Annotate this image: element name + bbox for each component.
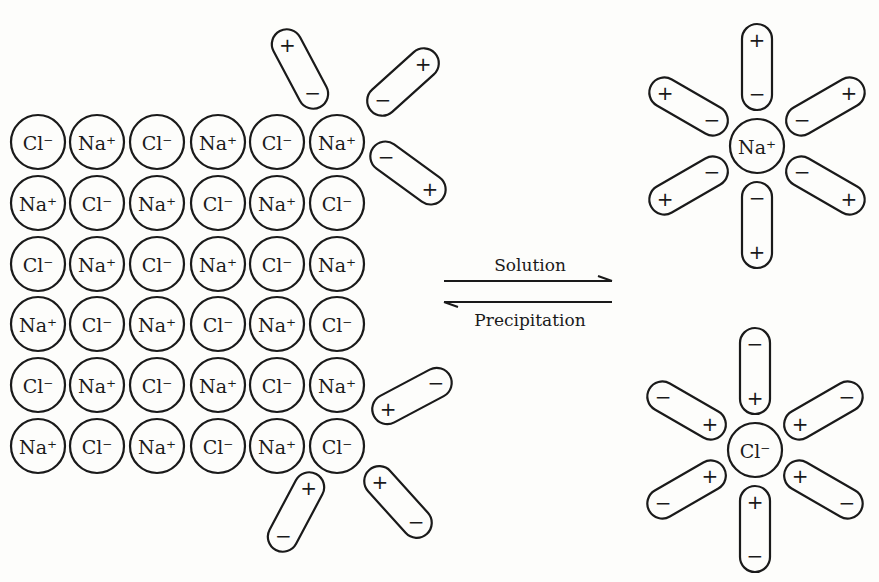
sodium-ion: Na⁺	[70, 115, 124, 169]
minus-pole: −	[838, 385, 855, 409]
ion-label: Na⁺	[19, 314, 57, 336]
ion-label: Cl⁻	[322, 314, 353, 336]
minus-pole: −	[275, 524, 292, 548]
hydrated-chloride-ion: Cl⁻+−+−+−+−+−+−	[642, 328, 868, 572]
sodium-ion: Na⁺	[191, 358, 245, 412]
ion-label: Cl⁻	[82, 193, 113, 215]
plus-pole: +	[702, 412, 719, 436]
minus-pole: −	[794, 160, 811, 184]
minus-pole: −	[704, 160, 721, 184]
water-dipole: −+	[364, 136, 451, 211]
plus-pole: +	[279, 33, 296, 57]
ion-label: Na⁺	[258, 314, 296, 336]
minus-pole: −	[655, 385, 672, 409]
minus-pole: −	[408, 510, 425, 534]
sodium-ion: Na⁺	[310, 237, 364, 291]
ion-label: Cl⁻	[203, 314, 234, 336]
ion-label: Na⁺	[199, 375, 237, 397]
ion-label: Na⁺	[138, 314, 176, 336]
ion-label: Cl⁻	[262, 254, 293, 276]
chloride-ion: Cl⁻	[250, 237, 304, 291]
plus-pole: +	[792, 412, 809, 436]
ion-label: Cl⁻	[82, 436, 113, 458]
water-dipole: +−	[740, 328, 770, 414]
ion-label: Cl⁻	[23, 132, 54, 154]
minus-pole: −	[655, 491, 672, 515]
plus-pole: +	[749, 28, 766, 52]
ion-label: Cl⁻	[142, 132, 173, 154]
ion-label: Cl⁻	[262, 375, 293, 397]
hydrated-sodium-ion: Na⁺−+−+−+−+−+−+	[644, 24, 870, 268]
reverse-arrow-icon	[444, 302, 612, 307]
water-dipole: +−	[358, 460, 438, 544]
sodium-ion: Na⁺	[250, 176, 304, 230]
plus-pole: +	[421, 177, 438, 201]
water-dipole: −+	[644, 72, 733, 141]
chloride-ion: Cl⁻	[11, 237, 65, 291]
plus-pole: +	[747, 386, 764, 410]
ion-label: Cl⁻	[203, 193, 234, 215]
minus-pole: −	[378, 145, 395, 169]
minus-pole: −	[427, 371, 444, 395]
water-dipole: −+	[781, 151, 870, 220]
plus-pole: +	[702, 464, 719, 488]
plus-pole: +	[415, 52, 432, 76]
chloride-ion: Cl⁻	[250, 115, 304, 169]
ion-label: Na⁺	[138, 436, 176, 458]
ion-label: Cl⁻	[322, 193, 353, 215]
water-dipole: +−	[263, 467, 330, 557]
minus-pole: −	[375, 88, 392, 112]
ion-label: Cl⁻	[142, 375, 173, 397]
water-dipole: −+	[781, 72, 870, 141]
ion-label: Cl⁻	[23, 375, 54, 397]
chloride-ion: Cl⁻	[191, 176, 245, 230]
water-dipole: +−	[267, 24, 334, 114]
sodium-ion: Na⁺	[130, 297, 184, 351]
chloride-ion: Cl⁻	[70, 176, 124, 230]
ion-label: Na⁺	[19, 193, 57, 215]
sodium-ion: Na⁺	[11, 176, 65, 230]
ion-label: Cl⁻	[82, 314, 113, 336]
sodium-ion-center: Na⁺	[730, 119, 784, 173]
plus-pole: +	[372, 470, 389, 494]
plus-pole: +	[840, 187, 857, 211]
ion-label: Na⁺	[318, 132, 356, 154]
sodium-ion: Na⁺	[191, 115, 245, 169]
minus-pole: −	[304, 81, 321, 105]
sodium-ion: Na⁺	[130, 419, 184, 473]
water-dipole: +−	[642, 455, 731, 524]
nacl-dissolution-diagram: Cl⁻Na⁺Cl⁻Na⁺Cl⁻Na⁺Na⁺Cl⁻Na⁺Cl⁻Na⁺Cl⁻Cl⁻N…	[0, 0, 879, 582]
plus-pole: +	[749, 240, 766, 264]
chloride-ion-center: Cl⁻	[728, 423, 782, 477]
sodium-ion: Na⁺	[70, 358, 124, 412]
chloride-ion: Cl⁻	[11, 358, 65, 412]
nacl-crystal-lattice: Cl⁻Na⁺Cl⁻Na⁺Cl⁻Na⁺Na⁺Cl⁻Na⁺Cl⁻Na⁺Cl⁻Cl⁻N…	[11, 115, 364, 473]
ion-label: Cl⁻	[740, 440, 771, 462]
ion-label: Cl⁻	[203, 436, 234, 458]
water-dipole: −+	[742, 24, 772, 110]
minus-pole: −	[749, 82, 766, 106]
plus-pole: +	[657, 81, 674, 105]
water-dipole: +−	[367, 363, 457, 430]
ion-label: Na⁺	[78, 254, 116, 276]
ion-label: Na⁺	[258, 436, 296, 458]
ion-label: Na⁺	[78, 375, 116, 397]
chloride-ion: Cl⁻	[11, 115, 65, 169]
ion-label: Na⁺	[199, 254, 237, 276]
solution-label: Solution	[494, 255, 566, 275]
sodium-ion: Na⁺	[250, 297, 304, 351]
chloride-ion: Cl⁻	[310, 419, 364, 473]
ion-label: Cl⁻	[142, 254, 173, 276]
sodium-ion: Na⁺	[130, 176, 184, 230]
chloride-ion: Cl⁻	[310, 297, 364, 351]
sodium-ion: Na⁺	[11, 297, 65, 351]
equilibrium-arrows: Solution Precipitation	[444, 255, 612, 330]
sodium-ion: Na⁺	[11, 419, 65, 473]
ion-label: Na⁺	[19, 436, 57, 458]
minus-pole: −	[747, 544, 764, 568]
forward-arrow-icon	[444, 276, 612, 281]
ion-label: Na⁺	[738, 136, 776, 158]
water-dipole: +−	[642, 376, 731, 445]
plus-pole: +	[840, 81, 857, 105]
sodium-ion: Na⁺	[191, 237, 245, 291]
